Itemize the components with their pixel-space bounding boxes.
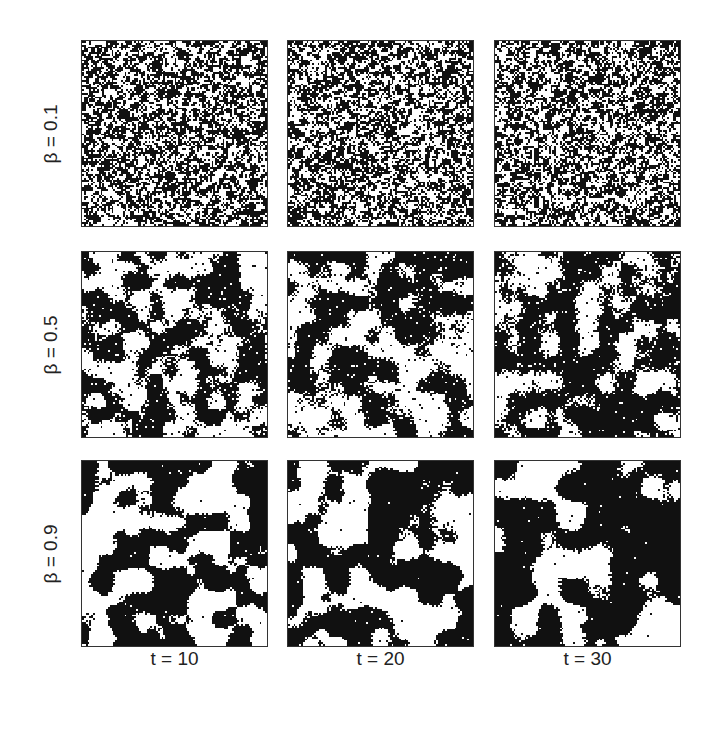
panel-beta-0.9-t-10	[81, 460, 268, 647]
panel-beta-0.9-t-20	[287, 460, 474, 647]
row-label-beta-0.1: β = 0.1	[30, 40, 70, 227]
col-label-t-10: t = 10	[81, 648, 268, 670]
panel-beta-0.1-t-20	[287, 40, 474, 227]
panel-beta-0.1-t-30	[494, 40, 681, 227]
row-label-beta-0.5: β = 0.5	[30, 251, 70, 438]
row-label-beta-0.9: β = 0.9	[30, 460, 70, 647]
panel-beta-0.5-t-30	[494, 251, 681, 438]
col-label-t-30: t = 30	[494, 648, 681, 670]
panel-beta-0.5-t-20	[287, 251, 474, 438]
panel-beta-0.5-t-10	[81, 251, 268, 438]
panel-beta-0.9-t-30	[494, 460, 681, 647]
panel-beta-0.1-t-10	[81, 40, 268, 227]
col-label-t-20: t = 20	[287, 648, 474, 670]
